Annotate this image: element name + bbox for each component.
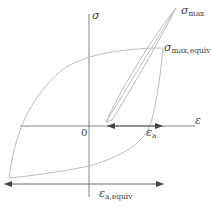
sigma-axis-label: σ <box>92 10 100 21</box>
diagram-canvas <box>0 0 211 208</box>
sigma-max-equiv-label: σmax,equiv <box>164 42 210 55</box>
epsilon-a-label: εa <box>146 127 156 140</box>
origin-label: 0 <box>81 128 87 138</box>
hysteresis-diagram: σ ε 0 σmax σmax,equiv εa εa,equiv <box>0 0 211 208</box>
epsilon-axis-label: ε <box>195 115 201 126</box>
epsilon-a-equiv-label: εa,equiv <box>99 188 132 201</box>
sigma-max-label: σmax <box>181 5 204 18</box>
